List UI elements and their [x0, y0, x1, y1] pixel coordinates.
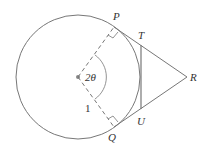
- radius-op: [78, 27, 114, 77]
- tangent-qr: [114, 77, 187, 127]
- radius-oq: [78, 77, 114, 127]
- right-angle-q: [108, 116, 118, 122]
- geometry-diagram: P T R U Q 2θ 1: [0, 0, 211, 152]
- label-t: T: [138, 29, 145, 41]
- label-p: P: [112, 10, 120, 22]
- label-u: U: [137, 115, 146, 127]
- label-r: R: [189, 71, 197, 83]
- label-radius: 1: [85, 102, 91, 114]
- label-q: Q: [108, 131, 116, 143]
- label-angle: 2θ: [85, 71, 97, 83]
- right-angle-p: [108, 32, 118, 38]
- tangent-pr: [114, 27, 187, 77]
- angle-arc: [95, 55, 106, 99]
